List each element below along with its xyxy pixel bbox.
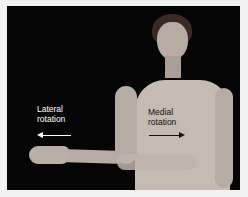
hand-lateral [29, 146, 69, 164]
neck [165, 56, 181, 78]
medial-arrowhead-icon [179, 132, 185, 138]
lateral-arrow-icon [41, 135, 71, 136]
medial-arrow-icon [149, 135, 179, 136]
lateral-rotation-label: Lateral rotation [37, 104, 65, 124]
forearm-medial [117, 154, 197, 170]
medial-rotation-label: Medial rotation [148, 107, 176, 127]
lateral-arrowhead-icon [37, 132, 43, 138]
head [157, 22, 188, 60]
forearm-lateral [62, 149, 122, 164]
right-arm [215, 88, 233, 188]
anatomy-photo: Lateral rotation Medial rotation [7, 6, 240, 190]
